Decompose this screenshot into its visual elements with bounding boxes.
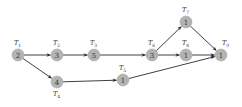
edge-t4-t5 [63,80,117,82]
node-label: T7 [182,6,189,15]
node-weight: 4 [55,79,60,87]
node-t3: 5T3 [88,39,100,61]
node-t1: 2T1 [12,39,24,61]
node-label: T4 [53,90,60,99]
task-graph-diagram: 2T13T25T34T41T53T61T71T81T9 [0,0,242,107]
node-weight: 3 [55,52,59,60]
node-t4: 4T4 [51,76,63,99]
node-label: T6 [148,39,155,48]
node-weight: 1 [219,52,223,60]
node-t2: 3T2 [51,39,63,61]
node-t5: 1T5 [117,64,129,86]
node-label: T9 [222,39,229,48]
node-label: T5 [119,64,126,73]
edge-t1-t4 [23,58,52,78]
node-label: T1 [14,39,21,48]
node-label: T8 [182,39,189,48]
node-t7: 1T7 [180,6,192,28]
node-weight: 5 [92,52,96,60]
node-weight: 1 [184,52,188,60]
edge-t5-t9 [129,57,215,79]
node-label: T2 [53,39,60,48]
node-weight: 2 [16,52,20,60]
nodes: 2T13T25T34T41T53T61T71T81T9 [12,6,229,99]
node-t6: 3T6 [146,39,158,61]
node-t9: 1T9 [215,39,229,61]
node-weight: 1 [184,19,188,27]
node-weight: 3 [150,52,154,60]
node-t8: 1T8 [180,39,192,61]
edge-t7-t9 [190,26,216,50]
edge-t6-t7 [156,27,181,51]
node-weight: 1 [121,77,125,85]
node-label: T3 [90,39,97,48]
